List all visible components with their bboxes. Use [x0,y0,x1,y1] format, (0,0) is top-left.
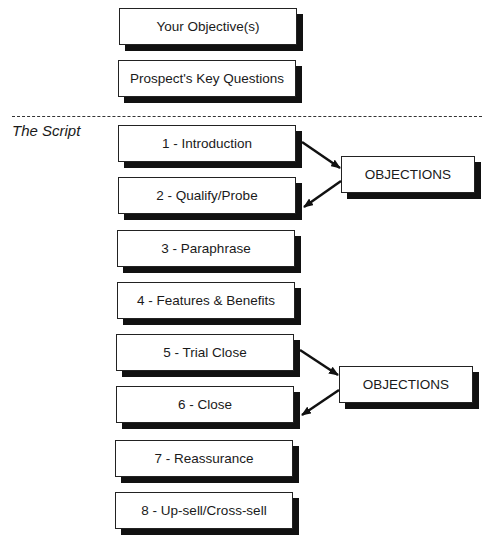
arrow-intro-to-objections [302,142,340,168]
arrow-objections-to-qualify [304,181,341,207]
connector-arrows [0,0,491,547]
arrow-trialclose-to-objections [300,350,338,375]
arrow-objections-to-close [302,390,339,415]
